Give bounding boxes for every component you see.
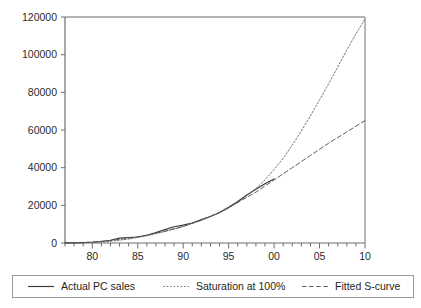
x-tick-label-5: 05 xyxy=(314,250,326,262)
y-tick-label-0: 0 xyxy=(51,237,57,249)
x-tick-label-0: 80 xyxy=(86,250,98,262)
chart-figure: 020000400006000080000100000120000 808590… xyxy=(0,0,421,308)
y-tick-label-3: 60000 xyxy=(28,124,57,136)
y-tick-label-2: 40000 xyxy=(28,161,57,173)
chart-background xyxy=(0,0,421,308)
x-tick-label-6: 10 xyxy=(359,250,371,262)
y-tick-label-1: 20000 xyxy=(28,199,57,211)
pc-sales-line-chart: 020000400006000080000100000120000 808590… xyxy=(0,0,421,308)
y-tick-label-4: 80000 xyxy=(28,86,57,98)
x-tick-label-4: 00 xyxy=(268,250,280,262)
legend-item-1: Saturation at 100% xyxy=(196,280,285,292)
y-tick-label-5: 100000 xyxy=(22,48,57,60)
y-tick-label-6: 120000 xyxy=(22,11,57,23)
x-tick-label-2: 90 xyxy=(177,250,189,262)
legend-item-0: Actual PC sales xyxy=(61,280,135,292)
legend-item-2: Fitted S-curve xyxy=(335,280,401,292)
x-tick-label-3: 95 xyxy=(223,250,235,262)
x-tick-label-1: 85 xyxy=(132,250,144,262)
